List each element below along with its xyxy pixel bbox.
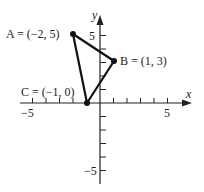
point-c-label: C = (−1, 0) bbox=[21, 85, 75, 99]
coordinate-plane: A = (−2, 5) B = (1, 3) C = (−1, 0) y x −… bbox=[0, 0, 204, 192]
y-axis bbox=[97, 15, 107, 184]
y-axis-label: y bbox=[91, 8, 98, 22]
point-b bbox=[111, 58, 117, 64]
triangle-abc bbox=[73, 34, 114, 103]
point-a bbox=[70, 31, 76, 37]
point-c bbox=[84, 100, 90, 106]
point-a-label: A = (−2, 5) bbox=[6, 27, 60, 41]
x-axis-label: x bbox=[185, 87, 192, 101]
x-tick-label-5: 5 bbox=[164, 106, 170, 120]
x-tick-label-neg5: −5 bbox=[21, 106, 34, 120]
y-tick-label-neg5: −5 bbox=[84, 164, 97, 178]
point-b-label: B = (1, 3) bbox=[120, 54, 167, 68]
y-axis-arrow-icon bbox=[97, 15, 104, 25]
y-tick-label-5: 5 bbox=[89, 29, 95, 43]
